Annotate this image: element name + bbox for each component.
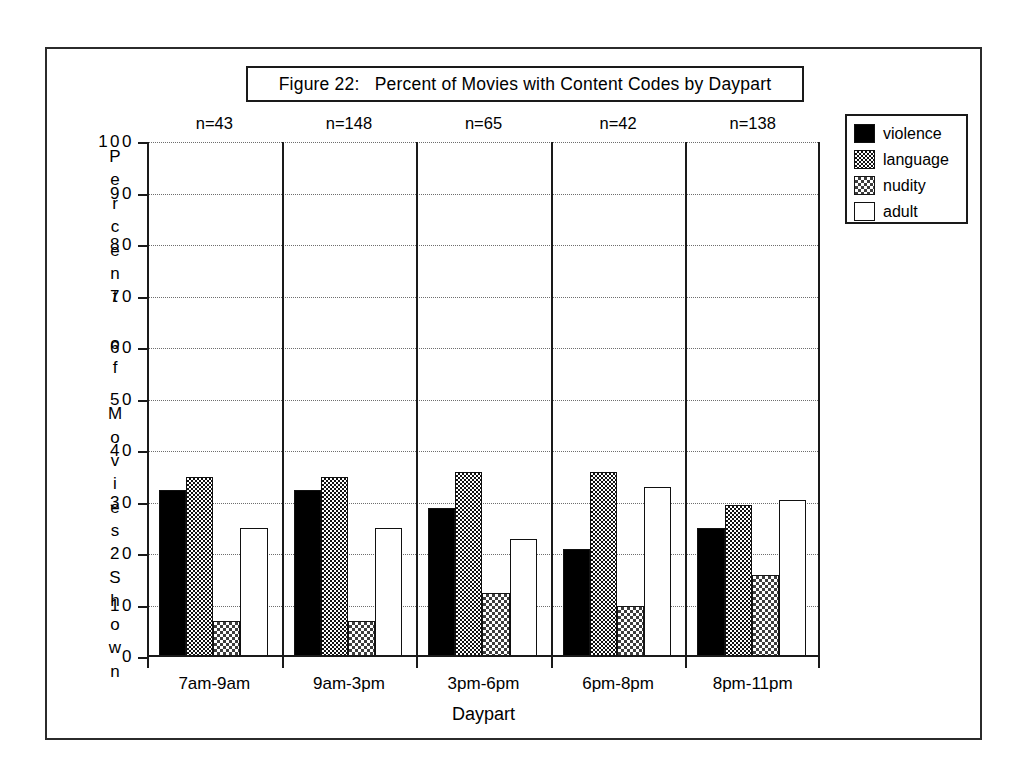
group-count-label: n=138 (730, 114, 776, 133)
bar-language (590, 472, 617, 657)
bar-adult (240, 528, 267, 657)
y-tick-label: 80 (110, 235, 134, 255)
bar-violence (697, 528, 724, 657)
x-category-label: 3pm-6pm (448, 674, 520, 694)
yaxis-title-letter: w (109, 636, 121, 659)
yaxis-title-letter: S (109, 566, 120, 589)
y-tick-mark (138, 554, 147, 556)
yaxis-title-letter: n (110, 262, 119, 285)
bar-adult (644, 487, 671, 657)
bar-language (186, 477, 213, 657)
legend-swatch-adult-icon (854, 202, 875, 221)
group-separator (416, 142, 418, 657)
legend-label: nudity (883, 177, 926, 195)
legend-swatch-language-icon (854, 150, 875, 169)
y-tick-label: 100 (98, 132, 134, 152)
x-category-label: 6pm-8pm (582, 674, 654, 694)
y-tick-label: 70 (110, 287, 134, 307)
bar-adult (510, 539, 537, 657)
bar-language (321, 477, 348, 657)
y-tick-label: 20 (110, 544, 134, 564)
y-tick-mark (138, 503, 147, 505)
y-tick-mark (138, 194, 147, 196)
bar-nudity (213, 621, 240, 657)
group-separator (551, 142, 553, 657)
yaxis-title-letter: s (111, 519, 120, 542)
bar-nudity (348, 621, 375, 657)
figure-frame: Figure 22: Percent of Movies with Conten… (45, 47, 982, 740)
bar-nudity (617, 606, 644, 658)
legend-swatch-violence-icon (854, 124, 875, 143)
legend-item-nudity: nudity (854, 173, 966, 198)
group-count-label: n=42 (600, 114, 637, 133)
group-separator (282, 142, 284, 657)
x-tick-mark (685, 657, 687, 668)
group-separator (685, 142, 687, 657)
bar-group (282, 142, 417, 657)
y-tick-mark (138, 348, 147, 350)
x-category-label: 8pm-11pm (713, 674, 793, 694)
bar-adult (779, 500, 806, 657)
bar-nudity (482, 593, 509, 657)
x-axis-line (147, 655, 820, 657)
bar-nudity (752, 575, 779, 657)
y-tick-mark (138, 400, 147, 402)
bar-violence (428, 508, 455, 657)
bar-language (725, 505, 752, 657)
y-tick-mark (138, 297, 147, 299)
x-tick-mark (416, 657, 418, 668)
y-tick-mark (138, 142, 147, 144)
bar-violence (563, 549, 590, 657)
legend-label: adult (883, 203, 918, 221)
y-tick-label: 0 (122, 647, 134, 667)
legend-item-language: language (854, 147, 966, 172)
group-count-label: n=148 (326, 114, 372, 133)
legend-label: violence (883, 125, 942, 143)
plot-area: 0102030405060708090100 (147, 142, 820, 657)
y-tick-mark (138, 245, 147, 247)
y-tick-label: 90 (110, 184, 134, 204)
group-count-label: n=65 (465, 114, 502, 133)
x-tick-mark (818, 657, 820, 668)
yaxis-title-letter: n (110, 660, 119, 683)
bar-group (685, 142, 820, 657)
x-tick-mark (147, 657, 149, 668)
y-tick-mark (138, 606, 147, 608)
page-title: Figure 22: Percent of Movies with Conten… (279, 74, 772, 95)
group-separator (818, 142, 820, 657)
y-tick-label: 40 (110, 441, 134, 461)
bar-group (147, 142, 282, 657)
chart-legend: violence language nudity adult (845, 114, 968, 224)
y-tick-label: 30 (110, 493, 134, 513)
x-tick-mark (551, 657, 553, 668)
y-tick-mark (138, 657, 147, 659)
x-tick-mark (282, 657, 284, 668)
legend-label: language (883, 151, 949, 169)
chart-title-box: Figure 22: Percent of Movies with Conten… (246, 66, 804, 102)
x-category-label: 7am-9am (178, 674, 250, 694)
legend-item-adult: adult (854, 199, 966, 224)
bar-adult (375, 528, 402, 657)
bar-group (416, 142, 551, 657)
y-tick-mark (138, 451, 147, 453)
xaxis-title: Daypart (452, 704, 515, 725)
y-tick-label: 10 (110, 596, 134, 616)
x-category-label: 9am-3pm (313, 674, 385, 694)
yaxis-title-letter: o (110, 613, 119, 636)
bar-group (551, 142, 686, 657)
legend-item-violence: violence (854, 121, 966, 146)
yaxis-title-letter: f (113, 356, 118, 379)
group-count-label: n=43 (196, 114, 233, 133)
y-tick-label: 60 (110, 338, 134, 358)
bar-violence (294, 490, 321, 657)
y-tick-label: 50 (110, 390, 134, 410)
bar-language (455, 472, 482, 657)
legend-swatch-nudity-icon (854, 176, 875, 195)
y-axis-line (147, 142, 149, 657)
bar-violence (159, 490, 186, 657)
